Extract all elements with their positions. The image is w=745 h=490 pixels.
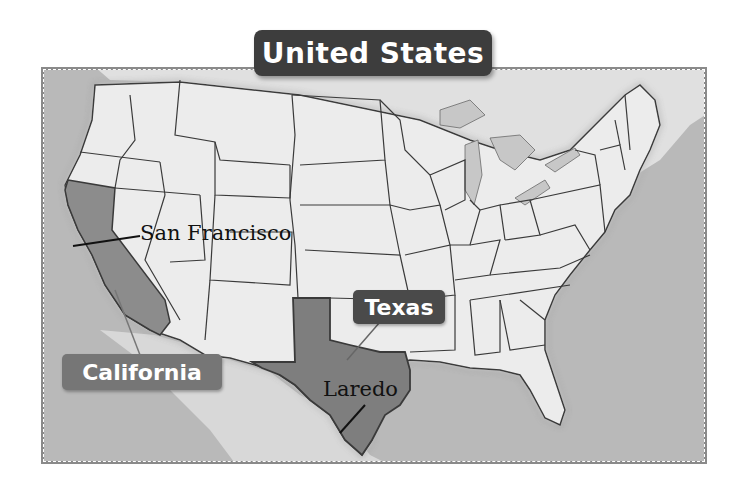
- us-map: [41, 67, 707, 464]
- map-title: United States: [254, 30, 492, 76]
- map-frame: [41, 67, 707, 464]
- texas-label: Texas: [353, 290, 445, 324]
- laredo-label: Laredo: [323, 377, 398, 401]
- san-francisco-label: San Francisco: [140, 221, 291, 245]
- california-label: California: [62, 354, 222, 390]
